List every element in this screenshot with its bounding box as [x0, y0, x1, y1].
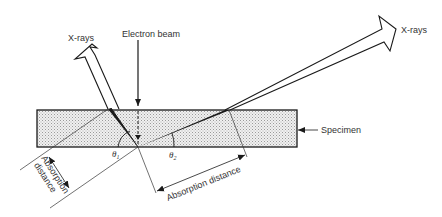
theta2-label: θ2 [169, 150, 176, 161]
absorption-distance-left-label: Absorption distance [31, 154, 71, 201]
electron-beam-label: Electron beam [122, 29, 180, 39]
specimen-label: Specimen [321, 125, 361, 135]
xrays-right-label: X-rays [401, 25, 428, 35]
xrays-left-label: X-rays [68, 33, 95, 43]
theta1-label: θ1 [112, 149, 119, 160]
specimen-block [37, 110, 297, 147]
x-ray-absorption-diagram: X-rays Electron beam X-rays Specimen θ1 … [0, 0, 442, 217]
